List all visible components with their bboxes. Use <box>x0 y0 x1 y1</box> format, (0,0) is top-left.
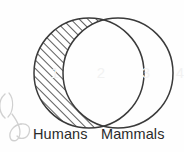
venn-diagram-screenshot: 1 2 3 4 Humans Mammals <box>0 0 184 152</box>
set-label-mammals: Mammals <box>101 127 165 142</box>
region-number-intersection: 2 <box>97 64 105 81</box>
region-number-outside: 4 <box>176 64 184 81</box>
region-number-right-only: 3 <box>142 64 150 81</box>
region-number-left-only: 1 <box>51 64 59 81</box>
set-label-humans: Humans <box>33 127 88 142</box>
